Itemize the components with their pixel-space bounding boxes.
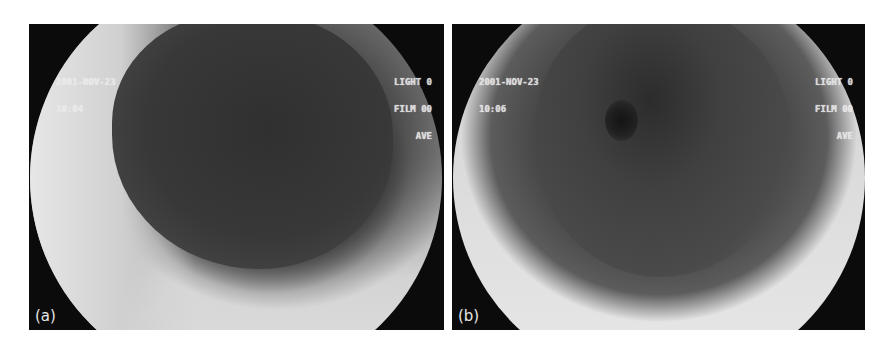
panel-label: (a) (35, 307, 56, 325)
osd-settings: LIGHT 0 FILM 00 AVE (394, 60, 432, 159)
endoscopy-image-panel-b: 2001-NOV-23 10:06 LIGHT 0 FILM 00 AVE (b… (452, 24, 865, 330)
osd-settings: LIGHT 0 FILM 00 AVE (815, 60, 853, 159)
osd-date: 2001-NOV-23 (56, 78, 116, 87)
panel-label: (b) (458, 307, 479, 325)
osd-film: FILM 00 (815, 105, 853, 114)
osd-mode: AVE (394, 132, 432, 141)
osd-film: FILM 00 (394, 105, 432, 114)
osd-time: 10:04 (56, 105, 116, 114)
endoscopy-image-panel-a: 2001-NOV-23 10:04 LIGHT 0 FILM 00 AVE (a… (29, 24, 444, 330)
osd-mode: AVE (815, 132, 853, 141)
osd-light: LIGHT 0 (815, 78, 853, 87)
osd-light: LIGHT 0 (394, 78, 432, 87)
osd-time: 10:06 (479, 105, 539, 114)
osd-date: 2001-NOV-23 (479, 78, 539, 87)
osd-datetime: 2001-NOV-23 10:04 (56, 60, 116, 132)
osd-datetime: 2001-NOV-23 10:06 (479, 60, 539, 132)
